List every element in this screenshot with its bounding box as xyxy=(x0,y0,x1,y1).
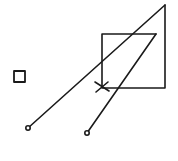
long-diagonal-line xyxy=(28,5,165,128)
small-square xyxy=(14,71,25,82)
endpoint-circle-b xyxy=(85,131,89,135)
diagram-canvas xyxy=(0,0,178,161)
endpoint-circle-a xyxy=(26,126,30,130)
rectangle-shape xyxy=(102,5,165,88)
